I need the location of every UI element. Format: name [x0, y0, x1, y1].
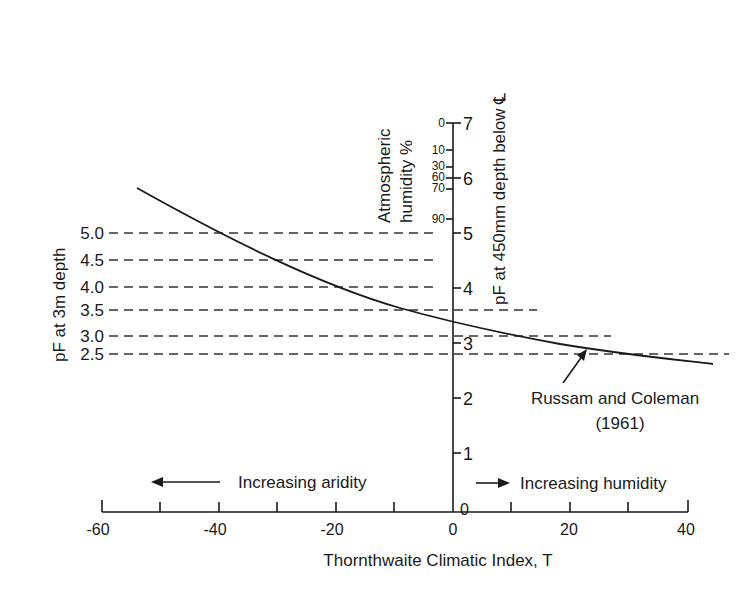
- dashed-reference-lines: [109, 233, 729, 354]
- x-tick-label: -60: [86, 521, 109, 538]
- right-tick-label: 2: [463, 389, 473, 409]
- left-level-label: 4.0: [80, 278, 104, 297]
- curve-year: (1961): [595, 414, 644, 433]
- aridity-arrow-icon: [151, 477, 220, 487]
- humidity-tick-label: 0: [438, 116, 445, 130]
- pf-450mm-axis: [446, 123, 461, 512]
- left-level-label: 4.5: [80, 251, 104, 270]
- russam-coleman-curve: [137, 188, 713, 364]
- right-tick-label: 1: [463, 444, 473, 464]
- left-level-labels: 5.0 4.5 4.0 3.5 3.0 2.5: [80, 224, 104, 364]
- humidity-arrow-icon: [476, 478, 510, 488]
- humidity-label: Increasing humidity: [520, 474, 667, 493]
- x-axis: [102, 500, 688, 512]
- aridity-label: Increasing aridity: [238, 473, 367, 492]
- x-tick-label: -20: [320, 521, 343, 538]
- x-tick-labels: -60 -40 -20 0 20 40: [86, 521, 695, 538]
- right-axis-title: pF at 450mm depth below ℄: [490, 93, 509, 305]
- humidity-tick-label: 90: [432, 212, 446, 226]
- left-level-label: 3.5: [80, 301, 104, 320]
- x-tick-label: 40: [677, 521, 695, 538]
- inner-axis-title-1: Atmospheric: [375, 128, 394, 223]
- left-axis-title: pF at 3m depth: [50, 248, 69, 362]
- right-tick-label: 4: [463, 279, 473, 299]
- curve-label: Russam and Coleman: [531, 389, 699, 408]
- humidity-tick-label: 10: [432, 143, 446, 157]
- right-tick-label: 5: [463, 224, 473, 244]
- left-level-label: 5.0: [80, 224, 104, 243]
- x-tick-label: -40: [203, 521, 226, 538]
- right-tick-label: 6: [463, 169, 473, 189]
- right-tick-label: 3: [463, 334, 473, 354]
- pf-450mm-tick-labels: 0 1 2 3 4 5 6 7: [460, 114, 473, 518]
- right-tick-label: 7: [463, 114, 473, 134]
- right-tick-label: 0: [460, 501, 469, 518]
- left-level-label: 3.0: [80, 327, 104, 346]
- x-tick-label: 0: [449, 521, 458, 538]
- x-tick-label: 20: [560, 521, 578, 538]
- humidity-tick-labels: 0 10 30 60 70 90: [432, 116, 446, 226]
- x-axis-title: Thornthwaite Climatic Index, T: [323, 551, 552, 570]
- inner-axis-title-2: humidity %: [397, 140, 416, 223]
- chart-canvas: -60 -40 -20 0 20 40 Thornthwaite Climati…: [0, 0, 756, 597]
- humidity-tick-label: 70: [432, 181, 446, 195]
- left-level-label: 2.5: [80, 345, 104, 364]
